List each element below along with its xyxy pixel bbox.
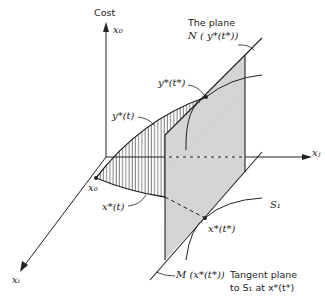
leader-y-star-t-star	[188, 85, 204, 95]
xj-axis-arrow-icon	[302, 154, 312, 160]
x0-point	[94, 176, 98, 180]
diagram-svg	[0, 0, 325, 302]
y-star-t-star-label: y*(t*)	[158, 78, 185, 88]
M-label: M (x*(t*))	[176, 270, 225, 280]
xi-axis	[24, 157, 106, 266]
x0-axis-label: x₀	[113, 25, 123, 35]
x-star-t-star-point	[203, 216, 207, 220]
diagram-canvas: Cost x₀ xⱼ xᵢ x₀ The plane N ( y*(t*)) y…	[0, 0, 325, 302]
x0-point-label: x₀	[88, 183, 98, 193]
leader-N	[238, 45, 254, 50]
cost-axis-label: Cost	[94, 8, 115, 18]
x-star-t-label: x*(t)	[102, 202, 124, 212]
xi-axis-label: xᵢ	[12, 275, 20, 285]
x-star-t-star-label: x*(t*)	[208, 224, 235, 234]
tangent-plane-caption-line1: Tangent plane	[230, 270, 297, 280]
leader-M	[156, 272, 175, 276]
cost-axis-arrow-icon	[103, 22, 109, 32]
y-star-t-star-point	[204, 95, 208, 99]
tangent-plane-caption-line2: to S₁ at x*(t*)	[230, 283, 294, 293]
plane-title-label: The plane	[188, 18, 235, 28]
xj-axis-label: xⱼ	[312, 148, 320, 158]
leader-x-star-t	[128, 195, 146, 206]
S1-label: S₁	[270, 200, 281, 210]
y-star-t-label: y*(t)	[112, 111, 134, 121]
plane-N-label: N ( y*(t*))	[188, 31, 238, 41]
